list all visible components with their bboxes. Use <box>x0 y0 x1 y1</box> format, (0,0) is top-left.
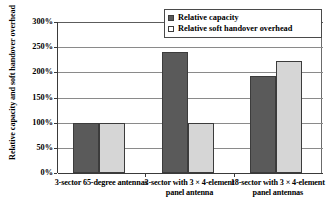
bar <box>276 61 302 173</box>
x-axis-category-label: 3-sector 65-degree antennas <box>54 178 148 188</box>
gridline <box>58 173 323 174</box>
bar-chart: Relative capacity and soft handover over… <box>0 0 332 215</box>
legend-label: Relative capacity <box>178 13 239 22</box>
y-axis-tick-label: 0% <box>21 169 53 177</box>
y-axis-tick-label: 150% <box>21 94 53 102</box>
bar <box>250 76 276 173</box>
y-axis-tick-label: 200% <box>21 68 53 76</box>
chart-legend: Relative capacity Relative soft handover… <box>164 9 322 38</box>
bar <box>99 123 125 173</box>
legend-item-relative-capacity: Relative capacity <box>168 12 317 23</box>
y-axis-tick-label: 300% <box>21 18 53 26</box>
y-axis-title: Relative capacity and soft handover over… <box>8 0 17 166</box>
x-axis-category-label: 18-sector with 3 × 4-element panel anten… <box>231 178 325 198</box>
dark-swatch-icon <box>168 15 174 21</box>
bars-layer <box>57 22 322 173</box>
y-axis-tick-mark <box>54 173 57 174</box>
legend-item-relative-soft-handover-overhead: Relative soft handover overhead <box>168 23 317 34</box>
bar <box>188 123 214 173</box>
y-axis-tick-label: 100% <box>21 119 53 127</box>
light-swatch-icon <box>168 26 174 32</box>
x-axis-tick-mark <box>145 173 146 177</box>
bar <box>73 123 99 173</box>
bar <box>162 52 188 173</box>
y-axis-tick-label: 50% <box>21 144 53 152</box>
x-axis-tick-mark <box>234 173 235 177</box>
y-axis-tick-label: 250% <box>21 43 53 51</box>
x-axis-category-label: 3-sector with 3 × 4-element panel antenn… <box>142 178 236 198</box>
legend-label: Relative soft handover overhead <box>178 24 292 33</box>
x-axis-labels: 3-sector 65-degree antennas3-sector with… <box>57 178 322 214</box>
